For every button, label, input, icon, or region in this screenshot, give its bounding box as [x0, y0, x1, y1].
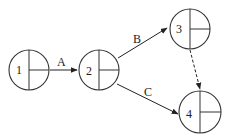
edge-c: C [117, 84, 178, 114]
edge-dummy-line [190, 50, 200, 89]
edge-b-line [118, 28, 167, 58]
edge-a: A [50, 55, 77, 70]
node-3-label: 3 [176, 22, 182, 36]
node-2-label: 2 [86, 64, 92, 78]
node-4: 4 [179, 91, 221, 133]
edge-c-label: C [144, 85, 152, 99]
network-diagram: A B C 1 2 3 4 [0, 0, 229, 137]
edge-dummy [190, 50, 200, 89]
node-3: 3 [170, 9, 210, 49]
edge-a-label: A [57, 55, 66, 69]
node-2: 2 [79, 50, 119, 90]
edge-b: B [118, 28, 167, 58]
node-1-label: 1 [16, 63, 22, 77]
edge-b-label: B [133, 32, 141, 46]
node-1: 1 [9, 50, 49, 90]
node-4-label: 4 [186, 107, 192, 121]
